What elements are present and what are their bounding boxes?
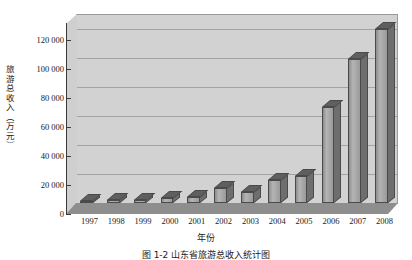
bar (214, 188, 227, 203)
y-axis-tick-label: 80 000 (41, 93, 64, 103)
x-axis-tick-labels: 1997199819992000200120022003200420052006… (66, 216, 398, 230)
y-axis-line (66, 23, 67, 215)
bar (134, 200, 147, 203)
bar (107, 200, 120, 203)
bar (295, 176, 308, 203)
bar-side-face (334, 101, 341, 203)
plot-floor (66, 203, 398, 214)
y-axis-tick-label: 120 000 (36, 35, 64, 45)
x-axis-tick-label: 2004 (269, 216, 286, 226)
y-axis-tick-mark (66, 127, 71, 128)
bar-front-face (348, 59, 361, 203)
y-axis-tick-mark (66, 214, 71, 215)
y-axis-tick-mark (66, 185, 71, 186)
bar-front-face (161, 198, 174, 203)
bar-front-face (268, 180, 281, 203)
y-axis-tick-mark (66, 156, 71, 157)
y-axis-tick-mark (66, 98, 71, 99)
bar-front-face (134, 200, 147, 203)
y-axis-tick-mark (66, 69, 71, 70)
bar-front-face (107, 200, 120, 203)
figure-chart-tourism-revenue: 旅游总收入（万元） 020 00040 00060 00080 000100 0… (0, 0, 412, 260)
x-axis-tick-label: 2002 (215, 216, 232, 226)
bar (268, 180, 281, 203)
x-axis-tick-label: 2007 (349, 216, 366, 226)
plot-area (66, 14, 398, 214)
y-axis-tick-label: 60 000 (41, 122, 64, 132)
bar-front-face (80, 201, 93, 203)
bar-front-face (214, 188, 227, 203)
y-axis-tick-labels: 020 00040 00060 00080 000100 000120 000 (18, 0, 64, 220)
x-axis-tick-label: 2001 (188, 216, 205, 226)
x-axis-tick-label: 2000 (161, 216, 178, 226)
x-axis-tick-label: 2008 (376, 216, 393, 226)
bar (187, 197, 200, 203)
gridline (77, 29, 397, 30)
y-axis-tick-label: 40 000 (41, 151, 64, 161)
bar-front-face (375, 29, 388, 203)
bar-front-face (187, 197, 200, 203)
x-axis-tick-label: 1999 (135, 216, 152, 226)
figure-caption: 图 1-2 山东省旅游总收入统计图 (0, 248, 412, 260)
bar (322, 107, 335, 203)
x-axis-tick-label: 2005 (296, 216, 313, 226)
bar (348, 59, 361, 203)
bar (161, 198, 174, 203)
x-axis-tick-label: 2003 (242, 216, 259, 226)
x-axis-title: 年份 (0, 231, 412, 244)
y-axis-title-text: 旅游总收入（万元） (3, 65, 15, 151)
y-axis-tick-label: 100 000 (36, 64, 64, 74)
bar-side-face (388, 23, 395, 203)
x-axis-tick-label: 2006 (322, 216, 339, 226)
x-axis-tick-label: 1997 (81, 216, 98, 226)
bar (375, 29, 388, 203)
x-axis-tick-label: 1998 (108, 216, 125, 226)
y-axis-tick-label: 0 (60, 209, 64, 219)
bar (80, 201, 93, 203)
bar (241, 192, 254, 203)
bar-side-face (361, 53, 368, 203)
y-axis-title: 旅游总收入（万元） (0, 0, 20, 215)
y-axis-tick-mark (66, 40, 71, 41)
y-axis-tick-label: 20 000 (41, 180, 64, 190)
bar-front-face (322, 107, 335, 203)
bar-front-face (295, 176, 308, 203)
bar-front-face (241, 192, 254, 203)
